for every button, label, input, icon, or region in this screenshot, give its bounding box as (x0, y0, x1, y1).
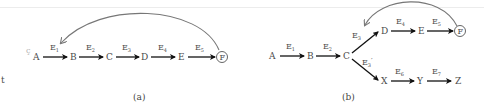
node-f: F (458, 27, 464, 36)
node-d: D (381, 26, 388, 36)
margin-mark: ç (26, 46, 31, 55)
node-b: B (307, 51, 314, 61)
edge-label-e2: E2 (323, 42, 332, 52)
node-a: A (32, 52, 40, 62)
pathway-diagrams: ç t A B C D E F E1 E2 E3 E4 E5 (a) A B C… (0, 0, 484, 109)
diagram-a: A B C D E F E1 E2 E3 E4 E5 (a) (32, 13, 228, 102)
edge-label-e5: E5 (432, 17, 441, 27)
node-e: E (418, 26, 425, 36)
caption-a: (a) (133, 92, 145, 102)
node-d: D (141, 52, 148, 62)
feedback-curve-arrow (365, 2, 457, 26)
node-c: C (343, 51, 350, 61)
margin-mark: t (1, 75, 5, 85)
edge-label-e5: E5 (195, 43, 204, 53)
edge-label-e3-prime: E3′ (362, 57, 373, 68)
edge-label-e1: E1 (286, 42, 295, 52)
node-e: E (178, 52, 185, 62)
edge-label-e2: E2 (86, 43, 95, 53)
node-b: B (70, 52, 77, 62)
caption-b: (b) (342, 92, 355, 102)
edge-label-e3: E3 (352, 31, 361, 41)
node-y: Y (416, 76, 424, 86)
edge-label-e3: E3 (122, 43, 131, 53)
node-a: A (268, 51, 276, 61)
diagram-b: A B C D E F X Y Z E1 E2 E3 E3′ E4 E5 E6 … (268, 2, 466, 102)
node-c: C (106, 52, 113, 62)
node-x: X (381, 76, 388, 86)
node-f: F (220, 53, 226, 62)
edge-label-e1: E1 (50, 43, 59, 53)
node-z: Z (455, 76, 461, 86)
edge-label-e4: E4 (158, 43, 167, 53)
edge-label-e4: E4 (396, 17, 405, 27)
edge-label-e7: E7 (432, 67, 441, 77)
edge-label-e6: E6 (395, 67, 404, 77)
